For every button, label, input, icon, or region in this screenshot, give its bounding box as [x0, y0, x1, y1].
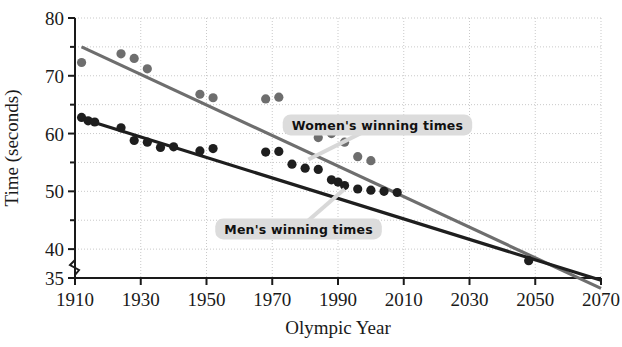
data-point	[366, 186, 375, 195]
data-point	[90, 117, 99, 126]
data-point	[366, 156, 375, 165]
y-tick-label: 40	[45, 239, 64, 260]
data-point	[130, 136, 139, 145]
series-women	[77, 47, 601, 289]
x-tick-label: 2050	[516, 289, 554, 310]
x-axis-title: Olympic Year	[285, 317, 391, 338]
callout-men: Men's winning times	[215, 189, 382, 239]
data-point	[274, 93, 283, 102]
x-tick-label: 2030	[451, 289, 489, 310]
callout-label: Women's winning times	[292, 118, 463, 133]
x-axis-ticks: 191019301950197019902010203020502070	[56, 278, 620, 310]
data-point	[274, 147, 283, 156]
callout-label: Men's winning times	[224, 222, 373, 237]
data-point	[77, 58, 86, 67]
data-point	[353, 184, 362, 193]
x-tick-label: 1950	[188, 289, 226, 310]
x-tick-label: 1970	[253, 289, 291, 310]
x-tick-label: 2010	[385, 289, 423, 310]
y-tick-label: 35	[45, 268, 64, 289]
x-tick-label: 1930	[122, 289, 160, 310]
y-tick-label: 50	[45, 181, 64, 202]
chart-container: 8070605040351910193019501970199020102030…	[0, 0, 622, 347]
data-point	[393, 188, 402, 197]
data-point	[261, 94, 270, 103]
data-point	[156, 143, 165, 152]
data-point	[130, 54, 139, 63]
olympic-times-chart: 8070605040351910193019501970199020102030…	[0, 0, 622, 347]
x-tick-label: 1990	[319, 289, 357, 310]
y-tick-label: 60	[45, 124, 64, 145]
data-point	[116, 123, 125, 132]
data-point	[301, 164, 310, 173]
trendline	[82, 47, 601, 289]
data-point	[340, 181, 349, 190]
x-tick-label: 1910	[56, 289, 94, 310]
x-tick-label: 2070	[582, 289, 620, 310]
data-point	[143, 64, 152, 73]
data-point	[353, 152, 362, 161]
y-axis-ticks: 807060504035	[45, 8, 75, 289]
data-point	[195, 90, 204, 99]
data-point	[195, 146, 204, 155]
data-point	[143, 138, 152, 147]
y-tick-label: 70	[45, 66, 64, 87]
data-point	[379, 187, 388, 196]
data-point	[261, 147, 270, 156]
data-point	[116, 49, 125, 58]
intersection-point	[524, 256, 533, 265]
data-point	[208, 93, 217, 102]
data-point	[169, 142, 178, 151]
data-point	[208, 144, 217, 153]
data-point	[287, 160, 296, 169]
data-point	[314, 165, 323, 174]
series-men	[77, 113, 601, 281]
y-tick-label: 80	[45, 8, 64, 29]
y-axis-title: Time (seconds)	[1, 90, 23, 207]
